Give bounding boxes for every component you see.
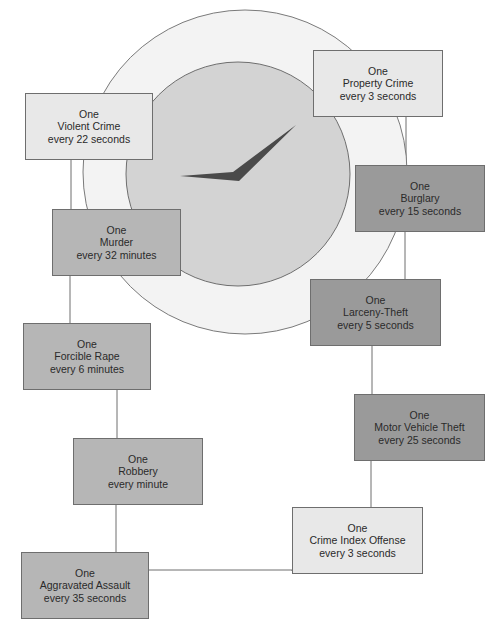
- node-label-offense: Motor Vehicle Theft: [374, 421, 464, 434]
- node-motor-vehicle-theft: One Motor Vehicle Theft every 25 seconds: [354, 394, 485, 461]
- node-label-count: One: [366, 294, 386, 307]
- node-label-count: One: [368, 65, 388, 78]
- edge-assault-index: [149, 570, 292, 571]
- node-label-count: One: [77, 338, 97, 351]
- node-label-frequency: every 22 seconds: [48, 133, 130, 146]
- node-label-offense: Larceny-Theft: [343, 306, 408, 319]
- node-label-count: One: [410, 180, 430, 193]
- node-label-frequency: every 35 seconds: [44, 592, 126, 605]
- node-property-crime: One Property Crime every 3 seconds: [313, 50, 443, 117]
- node-aggravated-assault: One Aggravated Assault every 35 seconds: [21, 552, 149, 619]
- node-label-count: One: [75, 567, 95, 580]
- node-label-offense: Burglary: [400, 192, 439, 205]
- node-crime-index-offense: One Crime Index Offense every 3 seconds: [292, 507, 423, 574]
- node-label-offense: Murder: [100, 236, 133, 249]
- node-label-offense: Aggravated Assault: [40, 579, 130, 592]
- node-label-offense: Crime Index Offense: [309, 534, 405, 547]
- node-label-offense: Robbery: [118, 465, 158, 478]
- node-label-count: One: [128, 453, 148, 466]
- node-label-offense: Forcible Rape: [54, 350, 119, 363]
- node-burglary: One Burglary every 15 seconds: [355, 165, 485, 232]
- node-label-frequency: every 6 minutes: [50, 363, 124, 376]
- node-label-offense: Violent Crime: [58, 120, 121, 133]
- node-robbery: One Robbery every minute: [73, 438, 203, 505]
- node-label-offense: Property Crime: [343, 77, 414, 90]
- node-label-frequency: every 25 seconds: [378, 434, 460, 447]
- node-murder: One Murder every 32 minutes: [52, 209, 181, 276]
- node-label-frequency: every 3 seconds: [340, 90, 416, 103]
- node-label-count: One: [348, 522, 368, 535]
- node-label-frequency: every 15 seconds: [379, 205, 461, 218]
- node-label-frequency: every 5 seconds: [337, 319, 413, 332]
- node-label-frequency: every minute: [108, 478, 168, 491]
- node-label-count: One: [107, 224, 127, 237]
- node-label-frequency: every 3 seconds: [319, 547, 395, 560]
- node-larceny-theft: One Larceny-Theft every 5 seconds: [310, 279, 441, 346]
- node-forcible-rape: One Forcible Rape every 6 minutes: [23, 323, 151, 390]
- node-label-count: One: [410, 409, 430, 422]
- node-label-count: One: [79, 108, 99, 121]
- node-violent-crime: One Violent Crime every 22 seconds: [25, 93, 153, 160]
- node-label-frequency: every 32 minutes: [77, 249, 157, 262]
